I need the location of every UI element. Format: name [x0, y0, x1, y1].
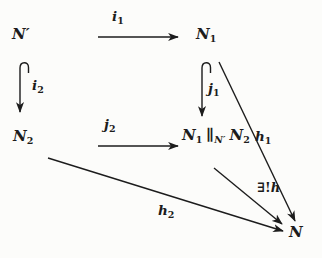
node-n1: N1	[196, 27, 216, 44]
node-pushout-n1-amalg-n2: N1∥N′N2	[182, 128, 250, 145]
commutative-diagram: N′ N1 N2 N1∥N′N2 N i1 i2 j1 j2 h1 h2 ∃!h	[0, 0, 322, 258]
node-n-prime: N′	[12, 27, 30, 42]
label-i2: i2	[32, 79, 44, 95]
label-exists-unique-h: ∃!h	[257, 181, 280, 194]
label-j2: j2	[104, 118, 116, 134]
label-h2: h2	[158, 204, 174, 220]
arrow-exists-unique-h	[214, 168, 282, 224]
label-i1: i1	[112, 10, 124, 26]
label-j1: j1	[208, 82, 220, 98]
arrow-h2	[48, 158, 283, 231]
label-h1: h1	[255, 130, 271, 146]
arrow-i2-hooked	[20, 63, 29, 112]
node-n: N	[289, 225, 303, 240]
node-n2: N2	[13, 129, 33, 146]
